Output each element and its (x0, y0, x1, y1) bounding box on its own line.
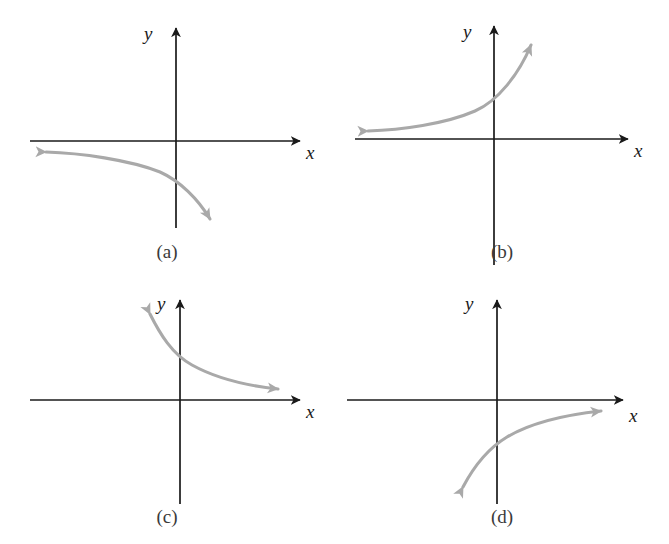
panel-a: y x (a) (0, 0, 334, 272)
panel-caption-c: (c) (0, 507, 334, 526)
panel-a-graph (0, 0, 334, 272)
x-axis-label-a: x (306, 143, 314, 162)
panel-b: y x (b) (335, 0, 669, 272)
x-axis-label-c: x (306, 402, 314, 421)
panel-d-graph (335, 272, 669, 544)
panel-b-graph (335, 0, 669, 272)
panel-caption-d: (d) (335, 507, 669, 526)
y-axis-label-b: y (463, 22, 471, 41)
x-axis-label-b: x (634, 141, 642, 160)
x-axis-label-d: x (629, 406, 637, 425)
panel-c: y x (c) (0, 272, 334, 544)
y-axis-label-d: y (465, 294, 473, 313)
panel-caption-b: (b) (335, 242, 669, 261)
y-axis-label-c: y (157, 294, 165, 313)
curve-d (463, 411, 601, 487)
curve-a (46, 152, 210, 219)
panel-c-graph (0, 272, 334, 544)
curve-b (368, 45, 531, 131)
curve-c (150, 314, 278, 389)
panel-caption-a: (a) (0, 242, 334, 261)
panel-d: y x (d) (335, 272, 669, 544)
y-axis-label-a: y (144, 24, 152, 43)
figure-root: y x (a) y x (b) (0, 0, 669, 544)
